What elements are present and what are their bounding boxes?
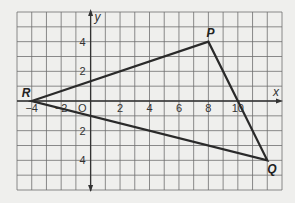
vertex-label-r: R — [22, 86, 31, 100]
x-tick-label: 6 — [176, 102, 182, 114]
y-axis-arrow-icon — [88, 9, 93, 16]
y-tick-label: 4 — [79, 36, 85, 48]
coordinate-plane: xy −4−2246810O4224 RPQ — [0, 0, 295, 203]
y-axis-arrow-down-icon — [88, 185, 93, 192]
y-axis-label: y — [94, 10, 102, 24]
x-tick-label: 8 — [205, 102, 211, 114]
x-axis-label: x — [272, 85, 280, 99]
axes: xy — [17, 9, 283, 192]
x-tick-label: 2 — [117, 102, 123, 114]
y-tick-label: 4 — [79, 154, 85, 166]
vertex-label-p: P — [206, 26, 215, 40]
y-tick-label: 2 — [79, 65, 85, 77]
vertex-label-q: Q — [267, 162, 277, 176]
y-tick-label: 2 — [79, 125, 85, 137]
x-tick-label: −4 — [25, 102, 38, 114]
x-tick-label: 4 — [146, 102, 152, 114]
